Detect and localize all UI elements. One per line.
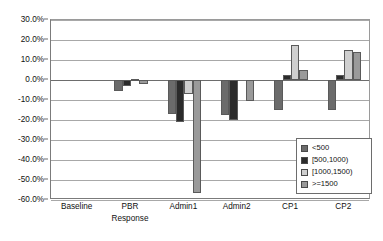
y-axis-tick-label: -60.0% xyxy=(18,195,44,204)
legend: <500[500,1000)[1000,1500)>=1500 xyxy=(296,138,372,194)
legend-item-label: [1000,1500) xyxy=(312,168,353,176)
y-axis-tick-label: -40.0% xyxy=(18,155,44,164)
y-axis-tick xyxy=(44,199,48,200)
bar xyxy=(344,50,352,80)
bar xyxy=(131,79,139,81)
zero-line xyxy=(51,80,369,81)
bar xyxy=(336,75,344,80)
bar-group xyxy=(221,20,254,198)
bar xyxy=(221,80,229,115)
bar-group xyxy=(114,20,147,198)
bar xyxy=(176,80,184,122)
y-axis-tick-label: -30.0% xyxy=(18,135,44,144)
bar xyxy=(139,80,147,84)
y-axis: 30.0%20.0%10.0%0.0%-10.0%-20.0%-30.0%-40… xyxy=(0,19,48,199)
legend-item[interactable]: [1000,1500) xyxy=(301,166,367,178)
y-axis-tick xyxy=(44,119,48,120)
bar xyxy=(299,70,307,80)
y-axis-tick xyxy=(44,59,48,60)
gridline xyxy=(51,200,369,201)
gridline xyxy=(51,100,369,101)
y-axis-tick-label: 30.0% xyxy=(21,15,44,24)
x-axis-tick-label: Baseline xyxy=(61,202,92,211)
legend-item[interactable]: <500 xyxy=(301,142,367,154)
legend-item-label: [500,1000) xyxy=(312,156,348,164)
bar xyxy=(291,45,299,80)
bar-group xyxy=(61,20,94,198)
y-axis-tick xyxy=(44,79,48,80)
x-axis-tick-label: Admin2 xyxy=(223,202,251,211)
legend-item-label: <500 xyxy=(312,144,329,152)
bar xyxy=(229,80,237,120)
gridline xyxy=(51,120,369,121)
y-axis-tick-label: -10.0% xyxy=(18,95,44,104)
bar xyxy=(184,80,192,94)
bar xyxy=(168,80,176,114)
y-axis-tick-label: 0.0% xyxy=(25,75,44,84)
y-axis-tick xyxy=(44,19,48,20)
bar xyxy=(328,80,336,110)
y-axis-tick-label: -50.0% xyxy=(18,175,44,184)
x-axis-title: Response xyxy=(112,214,149,223)
y-axis-tick-label: 10.0% xyxy=(21,55,44,64)
y-axis-tick-label: -20.0% xyxy=(18,115,44,124)
y-axis-tick xyxy=(44,159,48,160)
gridline xyxy=(51,40,369,41)
legend-swatch-icon xyxy=(301,169,308,176)
bar xyxy=(283,75,291,80)
bar xyxy=(123,80,131,86)
bar xyxy=(114,80,122,91)
gridline xyxy=(51,20,369,21)
bar xyxy=(353,52,361,80)
legend-swatch-icon xyxy=(301,145,308,152)
legend-swatch-icon xyxy=(301,181,308,188)
x-axis-tick-label: CP2 xyxy=(335,202,351,211)
legend-item[interactable]: [500,1000) xyxy=(301,154,367,166)
bar xyxy=(193,80,201,193)
legend-swatch-icon xyxy=(301,157,308,164)
bar-chart: 30.0%20.0%10.0%0.0%-10.0%-20.0%-30.0%-40… xyxy=(0,0,383,241)
y-axis-tick xyxy=(44,39,48,40)
bar xyxy=(246,80,254,101)
bar-group xyxy=(168,20,201,198)
y-axis-tick xyxy=(44,99,48,100)
y-axis-tick-label: 20.0% xyxy=(21,35,44,44)
gridline xyxy=(51,60,369,61)
y-axis-tick xyxy=(44,179,48,180)
y-axis-tick xyxy=(44,139,48,140)
bar xyxy=(274,80,282,110)
legend-item-label: >=1500 xyxy=(312,180,338,188)
x-axis-tick-label: CP1 xyxy=(282,202,298,211)
legend-item[interactable]: >=1500 xyxy=(301,178,367,190)
x-axis: BaselinePBRAdmin1Admin2CP1CP2 xyxy=(50,202,370,216)
x-axis-tick-label: PBR xyxy=(122,202,139,211)
x-axis-tick-label: Admin1 xyxy=(169,202,197,211)
